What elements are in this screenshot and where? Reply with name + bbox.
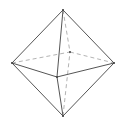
visible-edges	[12, 10, 114, 116]
vertex-left	[11, 62, 13, 64]
vertex-back	[69, 51, 71, 53]
vertex-bottom	[62, 115, 64, 117]
hidden-edge-bottom-back	[63, 52, 70, 116]
hidden-edges	[12, 10, 114, 116]
hidden-edge-back-right	[70, 52, 114, 63]
visible-edge-top-right	[63, 10, 114, 63]
octahedron-diagram	[0, 0, 121, 126]
vertex-front	[56, 76, 58, 78]
visible-edge-top-front	[57, 10, 63, 77]
vertex-right	[113, 62, 115, 64]
visible-edge-front-right	[57, 63, 114, 77]
vertex-top	[62, 9, 64, 11]
visible-edge-bottom-right	[63, 63, 114, 116]
octahedron-figure	[0, 0, 121, 126]
vertices	[11, 9, 115, 117]
